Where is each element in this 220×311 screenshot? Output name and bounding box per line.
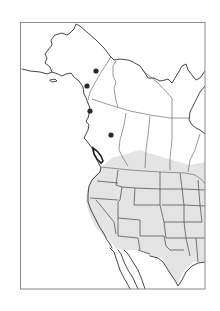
alaska-coastline: [22, 24, 205, 83]
60th-parallel: [92, 99, 190, 118]
map-svg: [0, 0, 220, 311]
aleutian-island: [50, 79, 57, 82]
hudson-bay-coast: [189, 86, 205, 134]
locality-dot: [93, 68, 98, 73]
locality-dot: [108, 132, 113, 137]
alaska-yukon-border: [88, 57, 111, 100]
nwt-nunavut-border: [142, 70, 172, 118]
yukon-nwt-border: [113, 61, 118, 107]
locality-dot: [84, 83, 89, 88]
range-map: [0, 0, 220, 311]
gulf-of-california: [118, 250, 138, 289]
vancouver-island: [93, 148, 103, 163]
range-shading: [86, 150, 205, 283]
locality-dot: [87, 108, 92, 113]
alaska-peninsula-coast: [52, 72, 88, 103]
map-content: [22, 24, 205, 289]
